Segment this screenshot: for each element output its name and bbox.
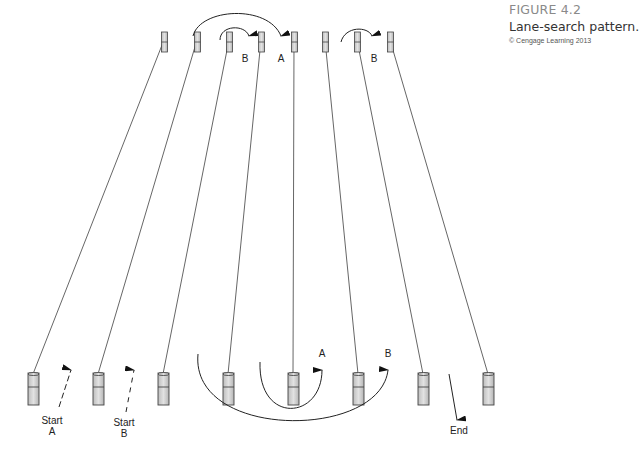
label-start-a-letter: A — [49, 426, 56, 437]
figure-title: Lane-search pattern. — [509, 18, 639, 35]
lane-line — [325, 40, 358, 374]
lane-lines — [33, 40, 488, 374]
lane-line — [390, 40, 488, 374]
arc-path-b-top-left — [220, 28, 249, 40]
direction-arrows — [59, 370, 457, 420]
start-b-arrow — [126, 370, 134, 412]
cone-icon — [158, 373, 169, 406]
cone-icon — [388, 32, 394, 52]
cone-icon — [227, 32, 233, 52]
lane-line — [163, 40, 229, 374]
cone-icon — [28, 373, 39, 406]
end-arrow — [449, 374, 457, 420]
cone-icon — [223, 373, 234, 406]
cone-icon — [162, 32, 168, 52]
label-start-b: Start — [113, 417, 134, 428]
label-start-b-letter: B — [121, 428, 128, 439]
start-a-arrow — [59, 370, 71, 407]
lane-line — [228, 40, 261, 374]
lane-line — [293, 40, 294, 374]
label-end: End — [450, 425, 468, 436]
cone-icon — [93, 373, 104, 406]
figure-number: FIGURE 4.2 — [509, 2, 639, 18]
cone-icon — [418, 373, 429, 406]
cone-icon — [288, 373, 299, 406]
lane-line — [357, 40, 423, 374]
top-path-arcs — [193, 13, 372, 42]
cone-icon — [195, 32, 201, 52]
cone-icon — [355, 32, 361, 52]
lane-line — [33, 40, 164, 374]
cone-icon — [292, 32, 298, 52]
label-start-a: Start — [41, 415, 62, 426]
figure-caption: FIGURE 4.2 Lane-search pattern. © Cengag… — [509, 2, 639, 47]
label-top-a: A — [278, 53, 285, 64]
arc-path-a-top — [193, 13, 281, 36]
figure-credit: © Cengage Learning 2013 — [509, 35, 639, 47]
cone-icon — [259, 32, 265, 52]
top-cones — [162, 32, 394, 52]
label-bottom-a: A — [319, 348, 326, 359]
cone-icon — [353, 373, 364, 406]
lane-line — [98, 40, 197, 374]
cone-icon — [323, 32, 329, 52]
label-top-b-right: B — [371, 53, 378, 64]
label-bottom-b: B — [385, 348, 392, 359]
cone-icon — [483, 373, 494, 406]
label-top-b-left: B — [242, 53, 249, 64]
